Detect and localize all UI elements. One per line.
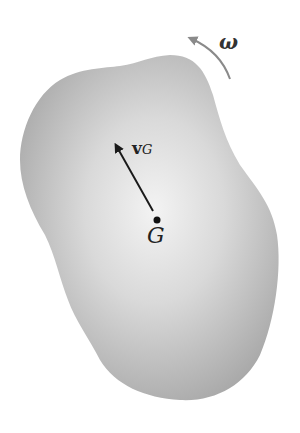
rigid-body-diagram: G vG ω	[0, 0, 300, 433]
angular-velocity-label: ω	[219, 30, 238, 54]
velocity-symbol: v	[132, 138, 142, 158]
velocity-subscript: G	[142, 142, 152, 157]
velocity-label: vG	[132, 138, 152, 158]
center-of-mass-label: G	[147, 223, 165, 248]
diagram-graphics	[0, 0, 300, 433]
